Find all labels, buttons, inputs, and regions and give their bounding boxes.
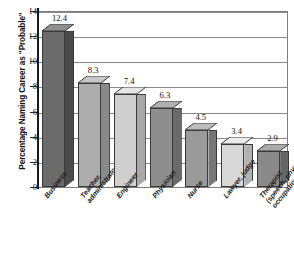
bar-value-label: 8.3 [88, 65, 99, 75]
bar-value-label: 12.4 [52, 13, 67, 23]
bar-value-label: 3.4 [231, 126, 242, 136]
bar-top-face [78, 76, 110, 83]
bar-value-label: 4.5 [195, 112, 206, 122]
gridline [37, 37, 287, 38]
y-axis-ticks: 02468101214 [0, 0, 37, 263]
bar-chart-figure: Percentage Naming Career as "Probable" 0… [0, 0, 294, 263]
bar[interactable] [42, 24, 74, 187]
y-tick-label: 0 [8, 182, 37, 192]
y-tick-label: 4 [8, 132, 37, 142]
bar-front-face [42, 31, 65, 187]
bar-side-face [137, 94, 146, 187]
bar-top-face [42, 24, 74, 31]
bar-top-face [150, 101, 182, 108]
y-tick-label: 6 [8, 107, 37, 117]
gridline [37, 87, 287, 88]
bar-value-label: 7.4 [124, 76, 135, 86]
bar-top-face [114, 87, 146, 94]
bar-top-face [257, 144, 289, 151]
bar-side-face [208, 130, 217, 187]
bar-value-label: 6.3 [160, 90, 171, 100]
y-tick-label: 2 [8, 157, 37, 167]
bar-value-label: 2.9 [267, 133, 278, 143]
bar-side-face [65, 31, 74, 187]
y-tick-label: 12 [8, 31, 37, 41]
bar-top-face [221, 137, 253, 144]
bar[interactable] [114, 87, 146, 187]
bar-top-face [185, 123, 217, 130]
bar[interactable] [185, 123, 217, 187]
y-tick-label: 8 [8, 81, 37, 91]
y-axis-line [37, 8, 39, 189]
y-tick-label: 10 [8, 56, 37, 66]
gridline [37, 62, 287, 63]
gridline [37, 12, 287, 13]
y-tick-label: 14 [8, 6, 37, 16]
